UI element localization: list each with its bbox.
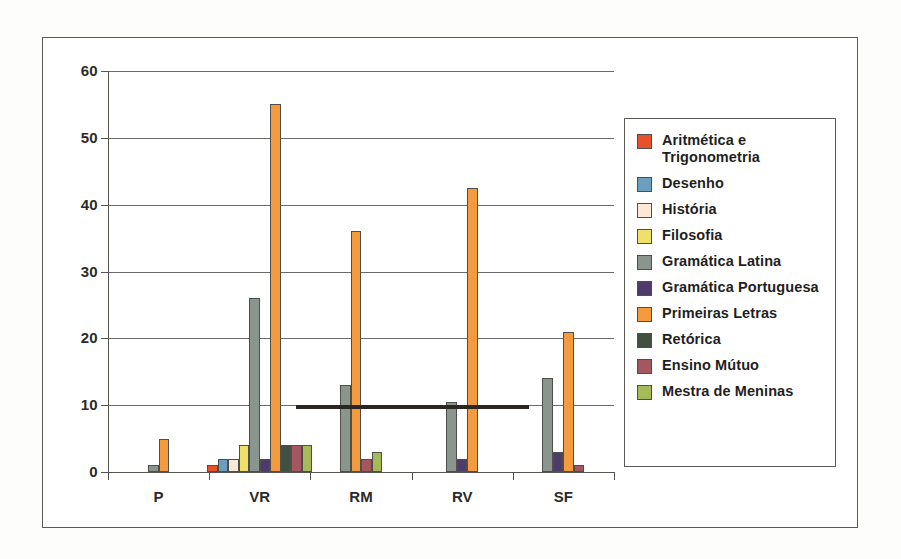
bar <box>574 465 585 472</box>
legend-swatch-icon <box>637 385 652 400</box>
x-tick-SF <box>513 472 514 480</box>
legend-swatch-icon <box>637 359 652 374</box>
legend-swatch-icon <box>637 333 652 348</box>
bar <box>239 445 250 472</box>
x-tick-label-SF: SF <box>513 488 614 505</box>
bar <box>228 459 239 472</box>
bar <box>218 459 229 472</box>
gridline-50 <box>108 138 614 139</box>
legend-item: Ensino Mútuo <box>637 357 835 374</box>
legend-item-label: Ensino Mútuo <box>662 357 759 374</box>
y-axis-line <box>108 71 109 472</box>
legend-item: Gramática Portuguesa <box>637 279 835 296</box>
plot-area: PVRRMRVSF <box>108 71 614 472</box>
y-tick-label-10: 10 <box>81 396 98 413</box>
bar <box>270 104 281 472</box>
gridline-30 <box>108 272 614 273</box>
legend-item-label: Mestra de Meninas <box>662 383 793 400</box>
legend-item: Filosofia <box>637 227 835 244</box>
bar <box>372 452 383 472</box>
y-tick-0 <box>101 472 108 473</box>
x-tick-label-RV: RV <box>412 488 513 505</box>
legend-swatch-icon <box>637 134 652 149</box>
dark-ruling-artifact <box>296 405 528 409</box>
y-tick-10 <box>101 405 108 406</box>
bar <box>291 445 302 472</box>
bar <box>351 231 362 472</box>
bar <box>207 465 218 472</box>
x-tick-VR <box>209 472 210 480</box>
bar <box>148 465 159 472</box>
y-axis-tick-labels: 0102030405060 <box>52 71 98 472</box>
y-tick-40 <box>101 205 108 206</box>
chart-figure: 0102030405060 PVRRMRVSF Aritmética e Tri… <box>0 0 901 559</box>
y-tick-label-20: 20 <box>81 329 98 346</box>
legend-swatch-icon <box>637 229 652 244</box>
legend-item-label: Gramática Latina <box>662 253 781 270</box>
legend-swatch-icon <box>637 307 652 322</box>
chart-legend: Aritmética e TrigonometriaDesenhoHistóri… <box>624 118 836 467</box>
x-tick-label-RM: RM <box>310 488 411 505</box>
bar <box>457 459 468 472</box>
gridline-60 <box>108 71 614 72</box>
legend-item-label: História <box>662 201 717 218</box>
x-tick-P <box>108 472 109 480</box>
y-tick-20 <box>101 338 108 339</box>
bar <box>260 459 271 472</box>
legend-swatch-icon <box>637 255 652 270</box>
y-tick-30 <box>101 272 108 273</box>
gridline-20 <box>108 338 614 339</box>
x-tick-label-P: P <box>108 488 209 505</box>
bar <box>159 439 170 472</box>
legend-swatch-icon <box>637 177 652 192</box>
y-tick-label-50: 50 <box>81 129 98 146</box>
gridline-40 <box>108 205 614 206</box>
legend-item-label: Filosofia <box>662 227 723 244</box>
y-tick-label-30: 30 <box>81 263 98 280</box>
legend-item: Aritmética e Trigonometria <box>637 132 835 166</box>
legend-item-label: Retórica <box>662 331 721 348</box>
y-tick-label-40: 40 <box>81 196 98 213</box>
bar <box>361 459 372 472</box>
bar <box>249 298 260 472</box>
legend-item: História <box>637 201 835 218</box>
legend-item: Mestra de Meninas <box>637 383 835 400</box>
x-tick-label-VR: VR <box>209 488 310 505</box>
bar <box>563 332 574 472</box>
x-tick-RV <box>412 472 413 480</box>
bar <box>542 378 553 472</box>
x-axis-line <box>108 472 614 473</box>
bar <box>467 188 478 472</box>
bar <box>340 385 351 472</box>
y-tick-label-60: 60 <box>81 62 98 79</box>
bar <box>281 445 292 472</box>
legend-swatch-icon <box>637 203 652 218</box>
legend-item-label: Primeiras Letras <box>662 305 777 322</box>
legend-item: Gramática Latina <box>637 253 835 270</box>
legend-item: Primeiras Letras <box>637 305 835 322</box>
y-tick-label-0: 0 <box>89 463 98 480</box>
legend-item-label: Desenho <box>662 175 724 192</box>
x-tick-end <box>614 472 615 480</box>
legend-item: Desenho <box>637 175 835 192</box>
bar <box>302 445 313 472</box>
bar <box>553 452 564 472</box>
x-tick-RM <box>310 472 311 480</box>
legend-item: Retórica <box>637 331 835 348</box>
y-tick-60 <box>101 71 108 72</box>
legend-swatch-icon <box>637 281 652 296</box>
legend-item-label: Aritmética e Trigonometria <box>662 132 835 166</box>
legend-item-label: Gramática Portuguesa <box>662 279 819 296</box>
y-tick-50 <box>101 138 108 139</box>
bar <box>446 402 457 472</box>
